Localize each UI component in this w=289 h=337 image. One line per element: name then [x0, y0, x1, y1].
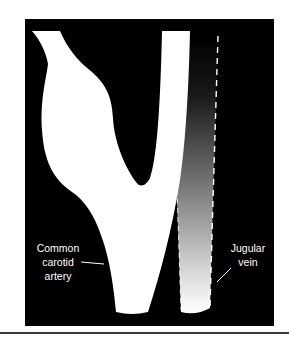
- label-jugular-vein: Jugular vein: [228, 241, 268, 269]
- label-line: Jugular: [228, 241, 268, 255]
- vessel-diagram: Common carotid artery Jugular vein: [0, 0, 289, 337]
- label-line: Common: [30, 241, 86, 255]
- label-line: carotid: [30, 255, 86, 269]
- label-common-carotid-artery: Common carotid artery: [30, 241, 86, 283]
- label-line: artery: [30, 269, 86, 283]
- label-line: vein: [228, 255, 268, 269]
- bottom-rule: [0, 332, 289, 334]
- diagram-canvas: [0, 0, 289, 337]
